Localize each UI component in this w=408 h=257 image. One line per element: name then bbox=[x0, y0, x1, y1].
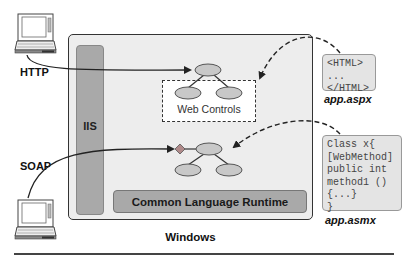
web-controls-tree bbox=[175, 64, 242, 99]
soap-request-arrow bbox=[28, 149, 173, 198]
aspx-compile-arrow bbox=[260, 37, 340, 78]
laptop-icon bbox=[15, 200, 56, 239]
asmx-compile-arrow bbox=[234, 121, 340, 147]
laptop-icon bbox=[15, 14, 56, 53]
web-service-tree bbox=[175, 143, 242, 176]
http-request-arrow bbox=[27, 55, 190, 70]
diagram-graphics bbox=[0, 0, 408, 257]
diamond-icon bbox=[175, 144, 185, 154]
